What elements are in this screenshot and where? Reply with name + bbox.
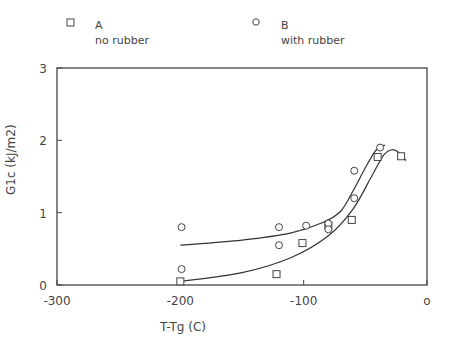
square-marker — [299, 240, 306, 247]
x-tick-label: o — [423, 294, 430, 308]
legend-b-label: B — [281, 18, 345, 33]
y-tick-label: 0 — [39, 279, 47, 293]
x-axis-label: T-Tg (C) — [160, 320, 206, 334]
y-tick-label: 1 — [39, 207, 47, 221]
y-tick-label: 2 — [39, 134, 47, 148]
chart-plot: -300-200-100o0123 — [0, 0, 449, 350]
square-marker — [348, 216, 355, 223]
x-tick-label: -200 — [167, 294, 194, 308]
circle-marker — [325, 226, 332, 233]
legend-a: A no rubber — [95, 18, 149, 48]
square-marker — [374, 153, 381, 160]
legend-b: B with rubber — [281, 18, 345, 48]
y-axis-label: G1c (kJ/m2) — [4, 124, 18, 195]
circle-marker — [178, 266, 185, 273]
y-tick-label: 3 — [39, 62, 47, 76]
circle-marker — [377, 144, 384, 151]
circle-marker — [178, 224, 185, 231]
circle-marker — [351, 167, 358, 174]
legend-square-icon — [67, 19, 74, 26]
circle-marker — [276, 224, 283, 231]
circle-marker — [351, 195, 358, 202]
square-marker — [273, 271, 280, 278]
square-marker — [398, 153, 405, 160]
square-marker — [177, 278, 184, 285]
circle-marker — [303, 222, 310, 229]
legend-a-desc: no rubber — [95, 33, 149, 48]
legend-b-desc: with rubber — [281, 33, 345, 48]
legend-a-label: A — [95, 18, 149, 33]
x-tick-label: -300 — [43, 294, 70, 308]
legend-circle-icon — [253, 19, 259, 25]
x-tick-label: -100 — [290, 294, 317, 308]
fit-curve — [180, 150, 406, 282]
circle-marker — [276, 242, 283, 249]
